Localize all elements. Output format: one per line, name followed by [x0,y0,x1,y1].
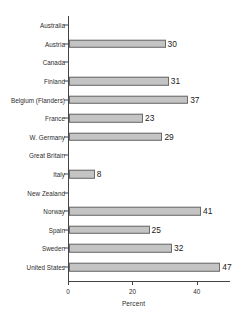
x-axis-tick-label: 20 [129,288,136,295]
category-label: Sweden [42,245,65,252]
category-label: France [45,115,65,122]
bar-value-label: 8 [97,170,102,179]
bar-row: W. Germany29 [0,128,245,147]
bar [69,133,162,142]
x-axis-tick [197,281,198,285]
bar [69,170,95,179]
category-label: Belgium (Flanders) [11,96,65,103]
bar [69,77,169,86]
category-label: Great Britain [29,152,65,159]
x-axis-line [68,281,230,282]
bar-row: Finland31 [0,72,245,91]
bar-row: Great Britain [0,146,245,165]
bar-row: Belgium (Flanders)37 [0,90,245,109]
bar-row: Italy8 [0,165,245,184]
category-label: Austria [45,40,65,47]
bar-value-label: 37 [190,95,199,104]
category-label: United States [27,264,65,271]
bar-value-label: 25 [152,225,161,234]
category-label: New Zealand [27,189,65,196]
bar [69,95,188,104]
bar-value-label: 32 [174,244,183,253]
bar-row: France23 [0,109,245,128]
category-label: Finland [44,78,65,85]
bar-value-label: 29 [164,132,173,141]
plot-area: AustraliaAustria30CanadaFinland31Belgium… [0,0,245,321]
category-label: Italy [53,171,65,178]
bar [69,226,150,235]
category-label: Spain [49,226,65,233]
bar-chart: AustraliaAustria30CanadaFinland31Belgium… [0,0,245,321]
bar-row: Sweden32 [0,239,245,258]
x-axis-title-text: Percent [122,300,145,307]
bar-value-label: 30 [168,39,177,48]
bar-row: Spain25 [0,221,245,240]
x-axis-title: Percent [0,300,245,308]
category-label: W. Germany [30,133,66,140]
category-label: Australia [40,22,65,29]
bar [69,244,172,253]
x-axis-tick-label: 40 [193,288,200,295]
bar-row: United States47 [0,258,245,277]
bar-row: Austria30 [0,35,245,54]
bar-value-label: 41 [203,207,212,216]
bar [69,207,201,216]
bar-row: Norway41 [0,202,245,221]
bar-row: Canada [0,53,245,72]
bar [69,114,143,123]
bar [69,263,220,272]
bar-value-label: 23 [145,114,154,123]
bar-row: Australia [0,16,245,35]
bar [69,40,166,49]
bar-value-label: 31 [171,77,180,86]
bar-row: New Zealand [0,183,245,202]
bar-value-label: 47 [222,263,231,272]
x-axis-tick-label: 0 [66,288,70,295]
category-label: Norway [43,208,65,215]
x-axis-tick [132,281,133,285]
x-axis-tick [68,281,69,285]
category-label: Canada [43,59,65,66]
